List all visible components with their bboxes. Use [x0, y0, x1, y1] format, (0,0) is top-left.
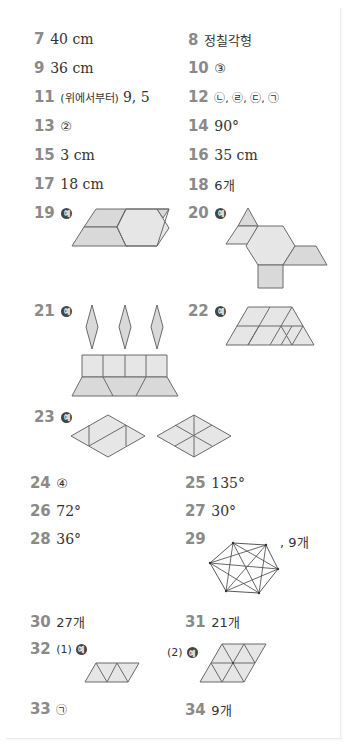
question-number: 19	[34, 204, 54, 222]
answer-18: 18 6개	[188, 175, 235, 194]
answer-12: 12 ㉡, ㉣, ㉢, ㉠	[188, 88, 279, 106]
answer-text: 27개	[56, 612, 85, 631]
answer-22: 22 예	[188, 302, 226, 320]
question-number: 23	[34, 408, 54, 426]
answer-30: 30 27개	[30, 612, 85, 631]
answer-text: ③	[214, 61, 226, 76]
answer-text: , 9개	[280, 532, 309, 551]
example-badge: 예	[187, 647, 198, 658]
question-number: 10	[188, 59, 208, 77]
answer-10: 10 ③	[188, 59, 226, 77]
answer-16: 16 35 cm	[188, 146, 258, 164]
question-number: 27	[185, 502, 205, 520]
question-number: 8	[188, 31, 198, 49]
question-number: 14	[188, 117, 208, 135]
question-number: 33	[30, 700, 50, 718]
figure-20-hexagon-composite	[226, 208, 326, 313]
figure-19-parallelogram	[72, 208, 162, 248]
question-number: 24	[30, 474, 50, 492]
question-number: 30	[30, 613, 50, 631]
answer-text: 40 cm	[50, 31, 93, 47]
answer-8: 8 정칠각형	[188, 30, 252, 49]
answer-33: 33 ㉠	[30, 700, 67, 718]
answer-29-count: , 9개	[280, 532, 309, 551]
question-number: 28	[30, 530, 50, 548]
answer-text: 36 cm	[50, 60, 93, 76]
figure-32-1-triangle-strip	[85, 662, 141, 683]
question-number: 20	[188, 204, 208, 222]
answer-text: 정칠각형	[204, 30, 252, 49]
figure-29-hexagon-diagonals	[210, 541, 280, 601]
example-badge: 예	[215, 208, 226, 219]
answer-19: 19 예	[34, 204, 72, 222]
answer-text: ㉠	[56, 701, 67, 717]
answer-32-part2: (2) 예	[167, 646, 198, 659]
question-number: 11	[34, 88, 54, 106]
answer-21: 21 예	[34, 302, 72, 320]
answer-23: 23 예	[34, 408, 72, 426]
answer-24: 24 ④	[30, 474, 68, 492]
answer-text: 9, 5	[123, 89, 150, 105]
answer-31: 31 21개	[185, 612, 240, 631]
answer-text: ㉡, ㉣, ㉢, ㉠	[214, 89, 279, 105]
question-number: 34	[185, 701, 205, 719]
answer-text: ②	[60, 119, 72, 134]
answer-32: 32 (1) 예	[30, 640, 87, 658]
answer-34: 34 9개	[185, 700, 232, 719]
part-1-label: (1)	[56, 643, 72, 656]
question-number: 12	[188, 88, 208, 106]
answer-text: 72°	[56, 503, 81, 519]
answer-11: 11 (위에서부터) 9, 5	[34, 88, 150, 106]
answer-29: 29	[185, 530, 211, 548]
answer-14: 14 90°	[188, 117, 239, 135]
answer-26: 26 72°	[30, 502, 81, 520]
answer-text: 135°	[211, 475, 245, 491]
question-number: 13	[34, 117, 54, 135]
question-number: 32	[30, 640, 50, 658]
answer-text: 90°	[214, 118, 239, 134]
figure-22-trapezoid-tiling	[226, 306, 316, 348]
example-badge: 예	[215, 306, 226, 317]
answer-17: 17 18 cm	[34, 175, 104, 193]
figure-21-cake	[70, 305, 180, 400]
answer-7: 7 40 cm	[34, 30, 94, 48]
question-number: 15	[34, 146, 54, 164]
answer-text: 35 cm	[214, 147, 257, 163]
answer-text: 21개	[211, 612, 240, 631]
question-number: 29	[185, 530, 205, 548]
part-2-label: (2)	[167, 646, 183, 659]
question-number: 25	[185, 474, 205, 492]
question-number: 17	[34, 175, 54, 193]
example-badge: 예	[76, 644, 87, 655]
answer-15: 15 3 cm	[34, 146, 95, 164]
answer-prefix: (위에서부터)	[60, 89, 119, 105]
answer-text: 36°	[56, 531, 81, 547]
answer-13: 13 ②	[34, 117, 72, 135]
question-number: 21	[34, 302, 54, 320]
figure-23-rhombus-divisions	[71, 414, 236, 459]
answer-25: 25 135°	[185, 474, 245, 492]
answer-20: 20 예	[188, 204, 226, 222]
answer-text: 18 cm	[60, 176, 103, 192]
question-number: 22	[188, 302, 208, 320]
question-number: 18	[188, 176, 208, 194]
answer-text: 6개	[214, 175, 234, 194]
question-number: 16	[188, 146, 208, 164]
answer-text: 30°	[211, 503, 236, 519]
answer-27: 27 30°	[185, 502, 236, 520]
question-number: 31	[185, 613, 205, 631]
answer-9: 9 36 cm	[34, 59, 94, 77]
question-number: 9	[34, 59, 44, 77]
example-badge: 예	[61, 208, 72, 219]
answer-text: 9개	[211, 700, 231, 719]
answer-text: 3 cm	[60, 147, 94, 163]
answer-text: ④	[56, 476, 68, 491]
question-number: 7	[34, 30, 44, 48]
figure-32-2-parallelogram-triangles	[200, 643, 268, 684]
question-number: 26	[30, 502, 50, 520]
answer-28: 28 36°	[30, 530, 81, 548]
